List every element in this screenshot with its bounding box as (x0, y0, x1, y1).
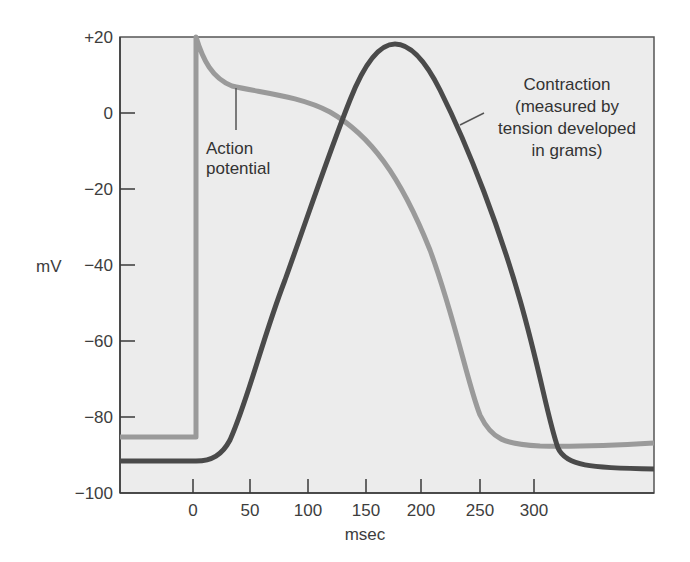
y-tick-label: −60 (84, 332, 113, 351)
y-tick-label: −80 (84, 408, 113, 427)
y-axis-label: mV (36, 257, 62, 276)
x-tick-label: 200 (407, 501, 435, 520)
x-tick-label: 250 (466, 501, 494, 520)
contraction-label-line: tension developed (498, 119, 636, 138)
y-tick-label: −100 (75, 484, 113, 503)
y-tick-label: −40 (84, 256, 113, 275)
contraction-label-line: Contraction (524, 75, 611, 94)
x-axis-label: msec (345, 525, 386, 544)
action-potential-label: Action (206, 139, 253, 158)
x-tick-label: 150 (352, 501, 380, 520)
x-tick-label: 0 (188, 501, 197, 520)
action-potential-label: potential (206, 159, 270, 178)
y-tick-labels: +20 0 −20 −40 −60 −80 −100 (75, 28, 113, 503)
contraction-label-line: (measured by (515, 97, 619, 116)
x-tick-label: 50 (241, 501, 260, 520)
y-tick-label: −20 (84, 180, 113, 199)
chart-figure: +20 0 −20 −40 −60 −80 −100 mV 0 50 100 1… (0, 0, 690, 562)
x-tick-label: 100 (294, 501, 322, 520)
y-tick-label: +20 (84, 28, 113, 47)
x-tick-label: 300 (520, 501, 548, 520)
x-tick-labels: 0 50 100 150 200 250 300 (188, 501, 548, 520)
contraction-label-line: in grams) (532, 141, 603, 160)
y-tick-label: 0 (104, 104, 113, 123)
